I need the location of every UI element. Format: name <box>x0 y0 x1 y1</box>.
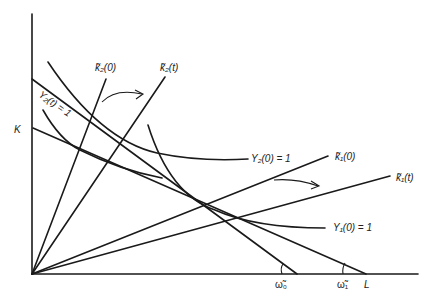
ray-label-k1-0: k̃₁(0) <box>335 151 355 162</box>
ray-label-k2-0: k̃₂(0) <box>95 62 116 73</box>
k2-arrowhead-icon <box>135 90 143 99</box>
ray-label-k2-t: k̃₂(t) <box>160 62 178 73</box>
isoquant-y1-0 <box>148 125 325 228</box>
diagram-canvas: K L k̃₂(0) k̃₂(t) k̃₁(0) k̃₁(t) Y₂(0) = … <box>0 0 431 301</box>
wage-label-w1: ω̃₁ <box>337 279 349 290</box>
isocost-line-w1 <box>33 128 366 274</box>
factor-intensity-diagram: K L k̃₂(0) k̃₂(t) k̃₁(0) k̃₁(t) Y₂(0) = … <box>0 0 431 301</box>
isoquant-label-y2-t: Y₂(t) = 1 <box>37 89 74 119</box>
k-axis-label: K <box>14 124 22 135</box>
wage-label-w0: ω̃₀ <box>275 279 287 290</box>
ray-k1-0 <box>32 156 328 274</box>
isoquant-label-y2-0: Y₂(0) = 1 <box>251 153 291 164</box>
l-axis-label: L <box>364 279 370 290</box>
isoquant-y2-0 <box>48 62 248 160</box>
k1-rotation-arrow <box>274 180 318 186</box>
k2-rotation-arrow <box>102 92 142 102</box>
angle-arc-w0 <box>281 264 283 274</box>
isoquant-y2-t <box>43 110 162 178</box>
ray-label-k1-t: k̃₁(t) <box>396 172 414 183</box>
isoquant-label-y1-0: Y₁(0) = 1 <box>333 222 372 233</box>
